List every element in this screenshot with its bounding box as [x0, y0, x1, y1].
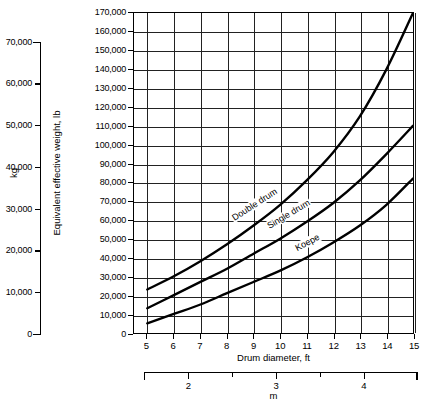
y-tick-label: 20,000 — [100, 291, 126, 301]
y-tick-label: 120,000 — [95, 102, 126, 112]
y-tick-label: 90,000 — [100, 159, 126, 169]
x-tick-label: 13 — [355, 340, 365, 351]
y-axis: 010,00020,00030,00040,00050,00060,00070,… — [70, 12, 133, 334]
y-tick-label: 150,000 — [95, 45, 126, 55]
x-tick-label: 8 — [224, 340, 229, 351]
m-tick-end — [144, 372, 145, 380]
x-tick — [200, 334, 201, 339]
y-tick-label: 130,000 — [95, 83, 126, 93]
x-tick — [146, 334, 147, 339]
m-tick-major — [188, 372, 189, 379]
m-tick-major — [276, 372, 277, 379]
kg-tick-label: 10,000 — [6, 287, 32, 297]
kg-tick — [33, 334, 41, 335]
series-line-double-drum — [147, 13, 413, 289]
kg-tick — [35, 250, 41, 251]
kg-tick — [35, 209, 41, 210]
x-tick-label: 10 — [275, 340, 285, 351]
kg-tick-label: 20,000 — [6, 245, 32, 255]
curve-layer — [134, 13, 413, 333]
x-tick — [334, 334, 335, 339]
plot-area: Double drumSingle drumKoepe — [133, 12, 414, 334]
y-tick-label: 160,000 — [95, 26, 126, 36]
y-tick-label: 30,000 — [100, 272, 126, 282]
x-tick-label: 12 — [329, 340, 339, 351]
x-tick — [253, 334, 254, 339]
kg-tick — [35, 83, 41, 84]
kg-tick — [35, 292, 41, 293]
kg-tick — [35, 125, 41, 126]
x-tick-label: 15 — [409, 340, 419, 351]
kg-tick — [33, 42, 41, 43]
y-tick-label: 70,000 — [100, 196, 126, 206]
x-tick — [414, 334, 415, 339]
x-tick — [173, 334, 174, 339]
y-tick-label: 100,000 — [95, 140, 126, 150]
y-tick-label: 0 — [121, 329, 126, 339]
y-tick-label: 10,000 — [100, 310, 126, 320]
y-tick-label: 40,000 — [100, 253, 126, 263]
y-tick-label: 170,000 — [95, 7, 126, 17]
kg-tick — [35, 167, 41, 168]
y-tick-label: 80,000 — [100, 177, 126, 187]
x-tick — [227, 334, 228, 339]
x-tick-label: 11 — [302, 340, 311, 351]
y-tick-label: 140,000 — [95, 64, 126, 74]
y-tick-label: 50,000 — [100, 234, 126, 244]
x-tick — [280, 334, 281, 339]
kg-tick-label: 60,000 — [6, 78, 32, 88]
y-axis-title: Equivalent effective weight, lb — [49, 12, 63, 334]
kg-tick-label: 50,000 — [6, 120, 32, 130]
m-axis-rule — [144, 372, 416, 373]
x-tick-label: 9 — [251, 340, 256, 351]
kg-tick-label: 0 — [27, 329, 32, 339]
kg-tick-label: 70,000 — [6, 37, 32, 47]
m-tick-end — [416, 372, 417, 380]
x-tick — [387, 334, 388, 339]
x-axis-title: Drum diameter, ft — [133, 352, 414, 363]
m-tick-major — [364, 372, 365, 379]
series-line-koepe — [147, 178, 413, 323]
x-tick-label: 14 — [382, 340, 392, 351]
kg-tick-label: 40,000 — [6, 162, 32, 172]
kg-tick-label: 30,000 — [6, 204, 32, 214]
x-tick-label: 6 — [171, 340, 176, 351]
m-tick-minor — [232, 372, 233, 377]
x-tick-label: 5 — [144, 340, 149, 351]
grid-line-vertical — [415, 13, 416, 333]
y-tick-label: 110,000 — [96, 121, 126, 131]
y-tick-label: 60,000 — [100, 215, 126, 225]
x-tick-label: 7 — [197, 340, 202, 351]
x-tick — [360, 334, 361, 339]
kg-axis: 010,00020,00030,00040,00050,00060,00070,… — [0, 12, 49, 334]
kg-axis-rule — [40, 42, 41, 334]
x-tick — [307, 334, 308, 339]
chart-figure: kg 010,00020,00030,00040,00050,00060,000… — [0, 0, 423, 411]
m-axis-title: m — [133, 390, 414, 401]
m-tick-minor — [320, 372, 321, 377]
